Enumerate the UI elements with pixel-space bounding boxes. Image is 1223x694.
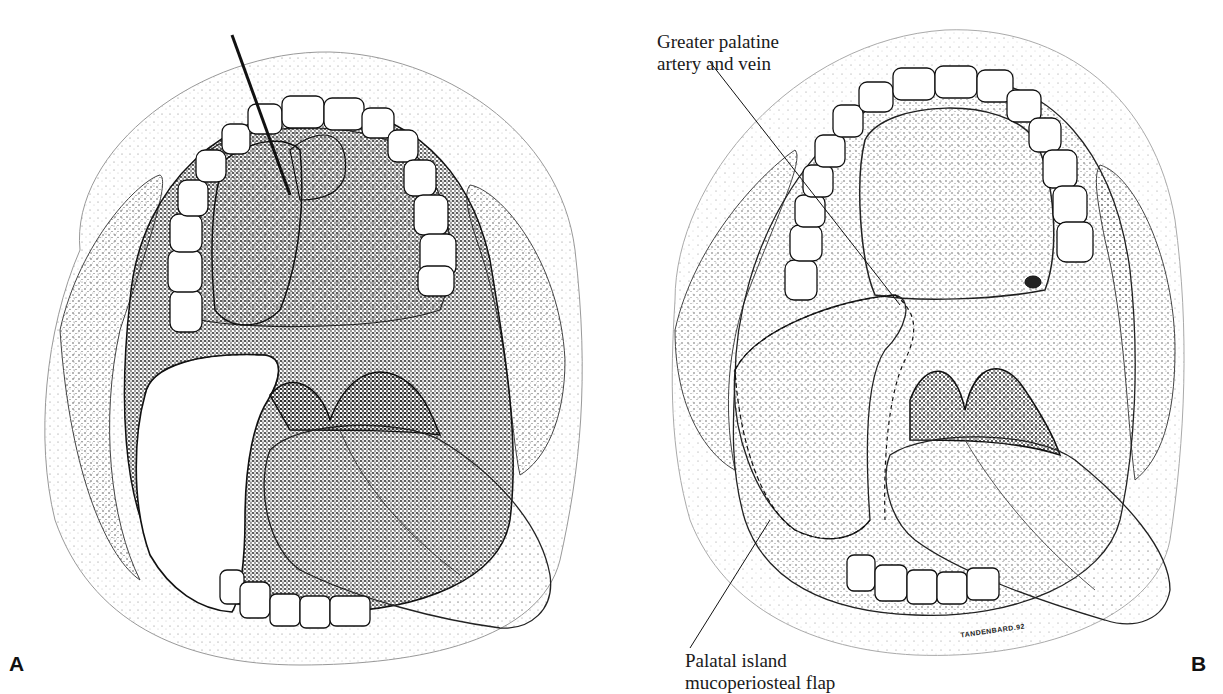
- panel-a-illustration: [0, 0, 615, 694]
- callout-pim-line1: Palatal island: [685, 650, 835, 672]
- callout-pim-line2: mucoperiosteal flap: [685, 672, 835, 694]
- callout-gpa-line2: artery and vein: [657, 53, 779, 75]
- panel-a: A: [0, 0, 615, 694]
- callout-palatal-island: Palatal island mucoperiosteal flap: [685, 650, 835, 694]
- callout-gpa-line1: Greater palatine: [657, 31, 779, 53]
- foramen-vessel: [1025, 276, 1041, 288]
- exposed-palate: [860, 108, 1054, 299]
- panel-b-illustration: [615, 0, 1223, 694]
- callout-greater-palatine: Greater palatine artery and vein: [657, 31, 779, 75]
- panel-label-b: B: [1191, 652, 1206, 676]
- panel-label-a: A: [9, 652, 24, 676]
- panel-b: Greater palatine artery and vein Palatal…: [615, 0, 1223, 694]
